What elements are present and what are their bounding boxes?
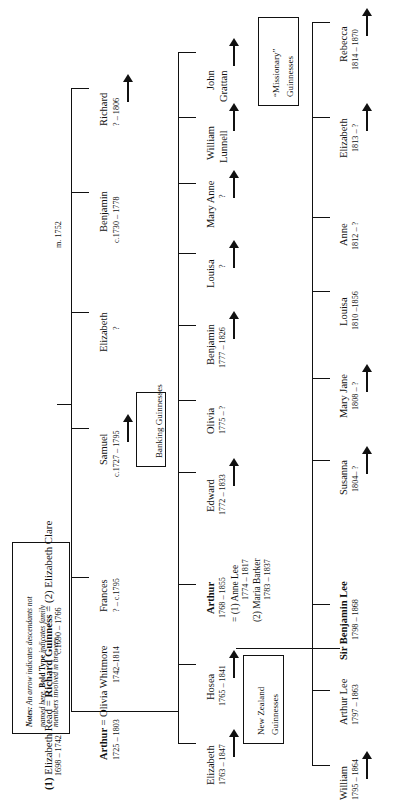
gen1-benjamin-name: Benjamin (98, 191, 110, 232)
gen1-tick-richard (71, 88, 89, 89)
gen3-benjaminlee-dates-text: 1798 – 1868 (351, 599, 360, 640)
gen3-rebecca-name: Rebecca (338, 26, 350, 62)
wife2-marker: (2) (42, 590, 54, 603)
gen2-arthur-dates-text: 1768 – 1855 (218, 577, 227, 618)
gen1-arthur-name: Arthur = Olivia Whitmore (98, 646, 110, 760)
gen3-elizabeth-name: Elizabeth (338, 118, 350, 158)
gen2-tick-william (178, 117, 196, 118)
gen2-hosea-name-text: Hosea (205, 674, 216, 700)
gen1-richard-name-text: Richard (98, 93, 109, 126)
gen2-elizabeth-name: Elizabeth (205, 745, 217, 785)
gen2-maryanne-dates: ? (218, 194, 227, 198)
gen2-olivia-dates: 1775 – ? (218, 406, 227, 434)
gen3-susanna-dates-text: 1804– ? (351, 466, 360, 492)
gen3-anne-name-text: Anne (338, 223, 349, 246)
gen3-elizabeth-name-text: Elizabeth (338, 118, 349, 158)
notes-line-1: Notes: An arrow indicates descendants no… (24, 596, 35, 727)
gen2-olivia-name-text: Olivia (205, 408, 216, 434)
gen2-arthur-marriage2-text: (2) Maria Barker (252, 558, 262, 622)
gen3-louisa-dates-text: 1810 –1856 (351, 291, 360, 330)
banking-guinnesses-text: Banking Guinnesses (154, 384, 164, 458)
gen1-tick-samuel (71, 428, 89, 429)
gen3-tick-louisa (312, 291, 330, 292)
gen1-arthur-spouse-text: = Olivia Whitmore (98, 646, 109, 726)
gen2-arthur-name: Arthur (205, 582, 217, 614)
wife1-dates-text: 1698 – 1742 (54, 735, 63, 776)
gen2-william-name: William (205, 126, 217, 160)
gen3-tick-william (312, 765, 330, 766)
gen3-arthurlee-dates: 1797 – 1863 (351, 684, 360, 725)
gen2-tick-elizabeth (178, 743, 196, 744)
new-zealand-guinnesses-label2: Guinnesses (270, 694, 281, 735)
gen3-benjaminlee-name-text: Sir Benjamin Lee (338, 581, 349, 660)
gen2-john-arrow-icon (229, 38, 239, 66)
gen3-anne-dates: 1812 – ? (351, 222, 360, 250)
gen2-edward-name: Edward (205, 479, 217, 512)
gen3-anne-name: Anne (338, 223, 350, 246)
gen3-william-name-text: William (338, 766, 349, 800)
gen1-frances-dates: ? – c.1795 (112, 578, 121, 612)
gen1-tick-benjamin (71, 192, 89, 193)
gen2-arthur-marriage1-dates-text: 1774 – 1817 (241, 559, 250, 600)
gen2-john-name2-text: Grattan (218, 71, 229, 103)
gen2-hosea-arrow-icon (229, 650, 239, 678)
missionary-line2-text: Guinnesses (285, 56, 295, 97)
gen3-louisa-dates: 1810 –1856 (351, 291, 360, 330)
gen2-edward-arrow-icon (229, 458, 239, 486)
gen3-elizabeth-dates: 1813 – ? (351, 124, 360, 152)
wife2-marriage-date: m. 1752 (54, 221, 63, 248)
gen2-john-name-text: John (205, 70, 216, 90)
gen1-samuel-arrow-icon (123, 414, 133, 442)
gen2-arthur-marriage1-dates: 1774 – 1817 (241, 559, 250, 600)
gen2-arthur-marriage1: = (1) Anne Lee (230, 565, 241, 622)
gen2-arthur-marriage2-dates: 1783 – 1837 (263, 559, 272, 600)
new-zealand-line2-text: Guinnesses (270, 694, 280, 735)
gen2-elizabeth-arrow-icon (229, 729, 239, 757)
wife2-name: Elizabeth Clare (42, 521, 54, 588)
gen1-samuel-dates-text: c.1727 – 1795 (112, 430, 121, 477)
gen1-arthur-to-gen2-link (89, 711, 179, 712)
gen3-arthurlee-name-text: Arthur Lee (338, 679, 349, 725)
gen2-olivia-name: Olivia (205, 408, 217, 434)
marriage-equals-2: = (42, 606, 54, 612)
gen2-maryanne-dates-text: ? (218, 194, 227, 198)
gen3-maryjane-dates: 1808 – ? (351, 382, 360, 410)
gen2-arthur-marriage2-dates-text: 1783 – 1837 (263, 559, 272, 600)
gen2-tick-maryanne (178, 183, 196, 184)
gen2-tick-hosea (178, 664, 196, 665)
gen2-tick-olivia (178, 400, 196, 401)
gen3-maryjane-arrow-icon (362, 364, 372, 392)
gen2-louisa-name-text: Louisa (205, 259, 216, 288)
gen2-arthur-to-gen3-link (236, 648, 340, 649)
gen2-elizabeth-name-text: Elizabeth (205, 745, 216, 785)
gen3-william-dates-text: 1795 – 1864 (351, 759, 360, 800)
gen3-susanna-name: Susanna (338, 460, 350, 495)
gen1-arthur-dates-text: 1725 – 1803 (112, 719, 121, 760)
new-zealand-line1-text: New Zealand (256, 687, 266, 735)
gen3-susanna-name-text: Susanna (338, 460, 349, 495)
gen2-benjamin-dates: 1777 – 1826 (218, 327, 227, 368)
gen2-tick-louisa (178, 253, 196, 254)
gen2-william-name-text: William (205, 126, 216, 160)
gen3-benjaminlee-name: Sir Benjamin Lee (338, 581, 350, 660)
gen3-william-name: William (338, 766, 350, 800)
gen3-anne-dates-text: 1812 – ? (351, 222, 360, 250)
gen1-tick-elizabeth (71, 312, 89, 313)
gen3-louisa-name-text: Louisa (338, 297, 349, 326)
gen2-william-arrow-icon (229, 103, 239, 131)
gen3-rebecca-name-text: Rebecca (338, 26, 349, 62)
gen3-tick-rebecca (312, 22, 330, 23)
marriage-equals: = (42, 700, 54, 706)
missionary-line1-text: “Missionary” (271, 49, 281, 98)
gen2-arthur-marriage2: (2) Maria Barker (252, 558, 263, 622)
gen1-samuel-name-text: Samuel (98, 434, 109, 466)
root-drop-line (57, 404, 72, 405)
gen3-benjaminlee-dates: 1798 – 1868 (351, 599, 360, 640)
gen2-william-name2: Lunnell (218, 130, 230, 163)
gen3-elizabeth-dates-text: 1813 – ? (351, 124, 360, 152)
gen2-maryanne-name: Mary Anne (205, 180, 217, 228)
gen2-hosea-dates: 1765 – 1841 (218, 665, 227, 706)
gen3-susanna-arrow-icon (362, 446, 372, 474)
gen3-rebecca-arrow-icon (362, 8, 372, 36)
gen2-tick-benjamin (178, 325, 196, 326)
